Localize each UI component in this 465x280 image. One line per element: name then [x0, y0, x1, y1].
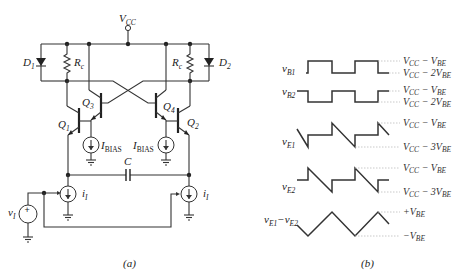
- svg-text:VCC − VBE: VCC − VBE: [403, 117, 447, 130]
- wave-label-ve2: vE2: [282, 180, 295, 195]
- waveform-vb2: [297, 91, 389, 102]
- ii-left-label: iI: [82, 187, 88, 202]
- current-source-ibias-left-icon: [83, 137, 99, 165]
- q4-label: Q4: [163, 100, 175, 115]
- ibias-right-label: IBIAS: [132, 139, 154, 154]
- resistor-rc-right-icon: [187, 44, 193, 81]
- resistor-rc-left-icon: [64, 44, 70, 81]
- waveform-vb1: [306, 61, 389, 73]
- svg-text:−VBE: −VBE: [403, 230, 425, 243]
- caption-b: (b): [361, 257, 374, 270]
- wave-label-vb1: vB1: [282, 62, 295, 77]
- q2-label: Q2: [187, 116, 199, 131]
- circuit-schematic: VCC D1 Rc D2 Rc: [8, 12, 231, 270]
- caption-a: (a): [123, 257, 136, 270]
- transistor-q1-icon: [67, 106, 91, 135]
- rc-left-label: Rc: [73, 56, 85, 71]
- vcc-label: VCC: [119, 12, 137, 27]
- level-labels: VCC − VBE VCC − 2VBE VCC − VBE VCC − 2VB…: [403, 55, 452, 243]
- wave-label-vb2: vB2: [282, 85, 295, 100]
- svg-text:+: +: [25, 205, 30, 215]
- svg-text:VCC − 2VBE: VCC − 2VBE: [403, 96, 452, 109]
- d2-label: D2: [218, 56, 231, 71]
- current-source-ii-left-icon: [60, 186, 76, 220]
- waveform-panel: vB1 vB2 vE1 vE2 vE1−vE2 VCC − VBE VCC − …: [264, 55, 452, 270]
- wave-label-vdiff: vE1−vE2: [264, 213, 298, 228]
- d1-label: D1: [22, 56, 35, 71]
- diode-d2-icon: [204, 58, 214, 66]
- q3-label: Q3: [82, 96, 94, 111]
- current-source-ii-right-icon: [181, 186, 197, 220]
- waveform-ve1: [297, 123, 389, 147]
- waveform-vdiff: [297, 212, 389, 236]
- ii-right-label: iI: [203, 187, 209, 202]
- capacitor-label: C: [124, 155, 132, 167]
- svg-text:+VBE: +VBE: [403, 206, 425, 219]
- svg-text:VCC − 2VBE: VCC − 2VBE: [403, 67, 452, 80]
- current-source-ibias-right-icon: [158, 137, 174, 165]
- rc-right-label: Rc: [171, 56, 183, 71]
- voltage-source-vi-icon: +: [19, 205, 37, 242]
- ibias-left-label: IBIAS: [100, 139, 122, 154]
- figure-canvas: VCC D1 Rc D2 Rc: [0, 0, 465, 280]
- q1-label: Q1: [58, 118, 70, 133]
- svg-text:VCC − 3VBE: VCC − 3VBE: [403, 186, 452, 199]
- waveform-ve2: [297, 168, 389, 192]
- svg-text:VCC − 3VBE: VCC − 3VBE: [403, 141, 452, 154]
- svg-text:VCC − VBE: VCC − VBE: [403, 162, 447, 175]
- vi-label: vI: [8, 206, 16, 221]
- wave-label-ve1: vE1: [282, 135, 295, 150]
- diode-d1-icon: [36, 58, 46, 66]
